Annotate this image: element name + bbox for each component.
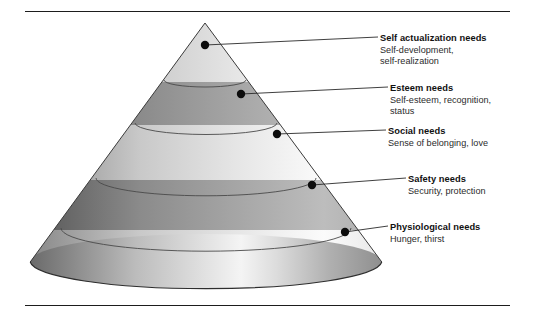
leader-line-esteem: [241, 87, 388, 94]
label-self-actualization: Self actualization needs Self-developmen…: [380, 33, 487, 67]
label-desc-safety-line-1: Security, protection: [408, 186, 486, 197]
label-title-physiological: Physiological needs: [390, 222, 480, 234]
maslow-cone-figure: Self actualization needs Self-developmen…: [0, 0, 540, 324]
label-desc-esteem-line-1: Self-esteem, recognition,: [390, 95, 491, 106]
label-title-self-actualization: Self actualization needs: [380, 33, 487, 45]
label-desc-esteem-line-2: status: [390, 106, 491, 117]
leader-dot-safety: [308, 181, 316, 189]
leader-dot-self-actualization: [201, 41, 209, 49]
label-esteem: Esteem needs Self-esteem, recognition, s…: [390, 83, 491, 117]
label-physiological: Physiological needs Hunger, thirst: [390, 222, 480, 245]
label-title-social: Social needs: [388, 126, 488, 138]
leader-line-social: [277, 130, 386, 134]
label-desc-self-actualization-line-1: Self-development,: [380, 45, 487, 56]
leader-line-self-actualization: [205, 37, 378, 45]
label-social: Social needs Sense of belonging, love: [388, 126, 488, 149]
cone-base-ellipse: [30, 234, 382, 290]
label-desc-self-actualization-line-2: self-realization: [380, 56, 487, 67]
label-desc-social-line-1: Sense of belonging, love: [388, 138, 488, 149]
label-title-safety: Safety needs: [408, 174, 486, 186]
leader-dot-social: [273, 130, 281, 138]
leader-dot-esteem: [237, 90, 245, 98]
label-title-esteem: Esteem needs: [390, 83, 491, 95]
leader-line-safety: [312, 178, 406, 185]
label-safety: Safety needs Security, protection: [408, 174, 486, 197]
leader-dot-physiological: [341, 228, 349, 236]
label-desc-physiological-line-1: Hunger, thirst: [390, 234, 480, 245]
